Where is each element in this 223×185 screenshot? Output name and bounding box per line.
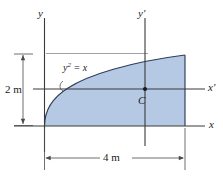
y-axis-label: y bbox=[38, 8, 43, 19]
x-axis-label: x bbox=[209, 119, 214, 130]
y-prime-mark: ′ bbox=[143, 7, 145, 19]
horizontal-dimension-label: 4 m bbox=[103, 152, 120, 163]
horizontal-dim-arrow-left bbox=[46, 156, 51, 160]
vertical-dimension-label: 2 m bbox=[5, 84, 22, 95]
x-prime-mark: ′ bbox=[213, 81, 215, 93]
centroid-point bbox=[143, 87, 147, 91]
x-prime-axis-label: x′ bbox=[208, 82, 215, 93]
vertical-dim-arrow-bottom bbox=[21, 119, 25, 124]
vertical-dim-arrow-top bbox=[21, 55, 25, 60]
centroid-label: C bbox=[138, 95, 145, 106]
curve-equation-rest: = x bbox=[71, 62, 87, 73]
horizontal-dim-arrow-right bbox=[179, 156, 184, 160]
curve-equation-label: y2 = x bbox=[63, 62, 87, 73]
y-prime-axis-label: y′ bbox=[138, 8, 145, 19]
